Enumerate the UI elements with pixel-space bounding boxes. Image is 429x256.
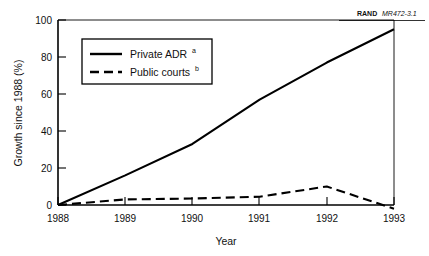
x-tick-label-1988: 1988 [47, 213, 70, 224]
x-tick-label-1993: 1993 [383, 213, 406, 224]
x-tick-label-1992: 1992 [316, 213, 339, 224]
growth-since-1988-line-chart: RAND MR472-3.1 100 80 60 40 20 0 [0, 0, 429, 256]
legend-superscript-b: b [195, 65, 199, 72]
y-axis-ticks: 100 80 60 40 20 0 [35, 15, 66, 211]
y-tick-label-80: 80 [41, 52, 53, 63]
y-tick-label-0: 0 [46, 200, 52, 211]
y-tick-label-60: 60 [41, 89, 53, 100]
legend-label-public-courts: Public courts [130, 66, 190, 78]
legend-label-private-adr: Private ADR [130, 48, 188, 60]
x-axis-title: Year [215, 235, 237, 247]
legend: Private ADR a Public courts b [82, 39, 212, 84]
legend-superscript-a: a [192, 47, 196, 54]
y-axis-title: Growth since 1988 (%) [12, 60, 24, 167]
x-tick-label-1991: 1991 [248, 213, 271, 224]
y-tick-label-40: 40 [41, 126, 53, 137]
y-tick-label-20: 20 [41, 163, 53, 174]
figure-container: RAND MR472-3.1 100 80 60 40 20 0 [0, 0, 429, 256]
y-tick-label-100: 100 [35, 15, 52, 26]
x-tick-label-1990: 1990 [181, 213, 204, 224]
source-note: RAND MR472-3.1 [339, 10, 425, 21]
source-document-id-text: MR472-3.1 [382, 10, 417, 17]
x-tick-label-1989: 1989 [114, 213, 137, 224]
source-brand-text: RAND [357, 10, 377, 17]
